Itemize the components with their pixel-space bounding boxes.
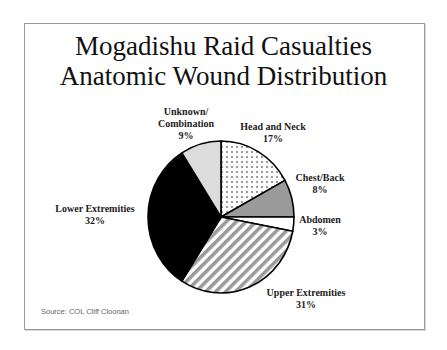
label-upper-pct: 31% xyxy=(267,299,346,311)
label-chest-name: Chest/Back xyxy=(296,172,345,184)
label-lower-pct: 32% xyxy=(55,215,134,227)
label-abdomen: Abdomen 3% xyxy=(299,214,341,238)
label-abdomen-pct: 3% xyxy=(299,226,341,238)
label-head-name: Head and Neck xyxy=(240,121,306,133)
label-unknown-name1: Unknown/ xyxy=(158,106,214,118)
pie-chart xyxy=(0,0,447,350)
label-chest-back: Chest/Back 8% xyxy=(296,172,345,196)
label-head-neck: Head and Neck 17% xyxy=(240,121,306,145)
label-unknown-name2: Combination xyxy=(158,118,214,130)
label-unknown: Unknown/ Combination 9% xyxy=(158,106,214,142)
label-chest-pct: 8% xyxy=(296,184,345,196)
label-lower-extremities: Lower Extremities 32% xyxy=(55,203,134,227)
label-abdomen-name: Abdomen xyxy=(299,214,341,226)
label-lower-name: Lower Extremities xyxy=(55,203,134,215)
label-upper-extremities: Upper Extremities 31% xyxy=(267,287,346,311)
label-head-pct: 17% xyxy=(240,133,306,145)
label-upper-name: Upper Extremities xyxy=(267,287,346,299)
label-unknown-pct: 9% xyxy=(158,130,214,142)
source-note: Source: COL Cliff Cloonan xyxy=(41,307,129,316)
